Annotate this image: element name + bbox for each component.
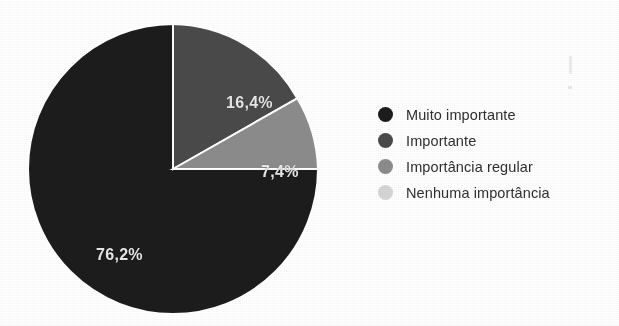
legend-item-importante[interactable]: Importante xyxy=(378,128,610,153)
legend-item-label: Importante xyxy=(406,133,476,149)
legend-item-nenhuma-importancia[interactable]: Nenhuma importância xyxy=(378,180,610,205)
scan-artifact xyxy=(569,56,572,74)
pie-slice-value-label: 16,4% xyxy=(226,94,273,112)
legend-swatch-icon xyxy=(378,185,393,200)
pie-chart-figure: 76,2% 16,4% 7,4% Muito importante Import… xyxy=(0,0,619,326)
legend-swatch-icon xyxy=(378,159,393,174)
legend-item-importancia-regular[interactable]: Importância regular xyxy=(378,154,610,179)
scan-artifact xyxy=(568,86,572,89)
legend-item-label: Importância regular xyxy=(406,159,533,175)
chart-legend: Muito importante Importante Importância … xyxy=(378,102,610,206)
legend-swatch-icon xyxy=(378,133,393,148)
pie-slice-value-label: 7,4% xyxy=(261,163,299,181)
legend-item-muito-importante[interactable]: Muito importante xyxy=(378,102,610,127)
legend-swatch-icon xyxy=(378,107,393,122)
legend-item-label: Muito importante xyxy=(406,107,516,123)
pie-slice-value-label: 76,2% xyxy=(96,246,143,264)
legend-item-label: Nenhuma importância xyxy=(406,185,550,201)
pie-plot-area: 76,2% 16,4% 7,4% xyxy=(28,24,318,314)
